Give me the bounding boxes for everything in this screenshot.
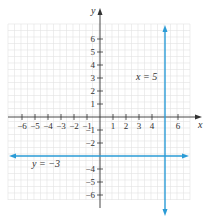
x-tick-label: −2 xyxy=(69,121,79,131)
x-tick-label: 1 xyxy=(111,121,116,131)
label-y-equals-neg3: y = −3 xyxy=(31,158,60,169)
y-tick-label: 5 xyxy=(91,47,96,57)
y-axis-arrow-icon xyxy=(98,8,103,15)
grid-lines xyxy=(8,24,190,200)
y-tick-label: 4 xyxy=(91,60,96,70)
y-tick-label: −1 xyxy=(85,125,95,135)
arrow-up-icon xyxy=(163,25,168,32)
x-tick-label: −6 xyxy=(17,121,27,131)
label-x-equals-5: x = 5 xyxy=(135,71,157,82)
x-tick-label: −4 xyxy=(43,121,53,131)
y-tick-label: 2 xyxy=(91,86,96,96)
x-tick-label: 4 xyxy=(150,121,155,131)
arrow-down-icon xyxy=(163,209,168,216)
x-axis-label: x xyxy=(197,119,203,130)
y-tick-label: −6 xyxy=(85,190,95,200)
x-tick-label: −5 xyxy=(30,121,40,131)
x-tick-label: −3 xyxy=(56,121,66,131)
x-tick-label: 6 xyxy=(176,121,181,131)
y-tick-label: −5 xyxy=(85,177,95,187)
x-tick-label: 3 xyxy=(137,121,142,131)
y-tick-label: 6 xyxy=(91,34,96,44)
y-axis-label: y xyxy=(90,5,96,16)
coordinate-plane: xy −6−5−4−3−2−112346−6−5−4−2−1123456 x =… xyxy=(0,0,208,220)
y-tick-label: −2 xyxy=(85,138,95,148)
y-tick-label: −4 xyxy=(85,164,95,174)
x-tick-label: 2 xyxy=(124,121,129,131)
y-tick-label: 3 xyxy=(91,73,96,83)
y-tick-label: 1 xyxy=(91,99,96,109)
